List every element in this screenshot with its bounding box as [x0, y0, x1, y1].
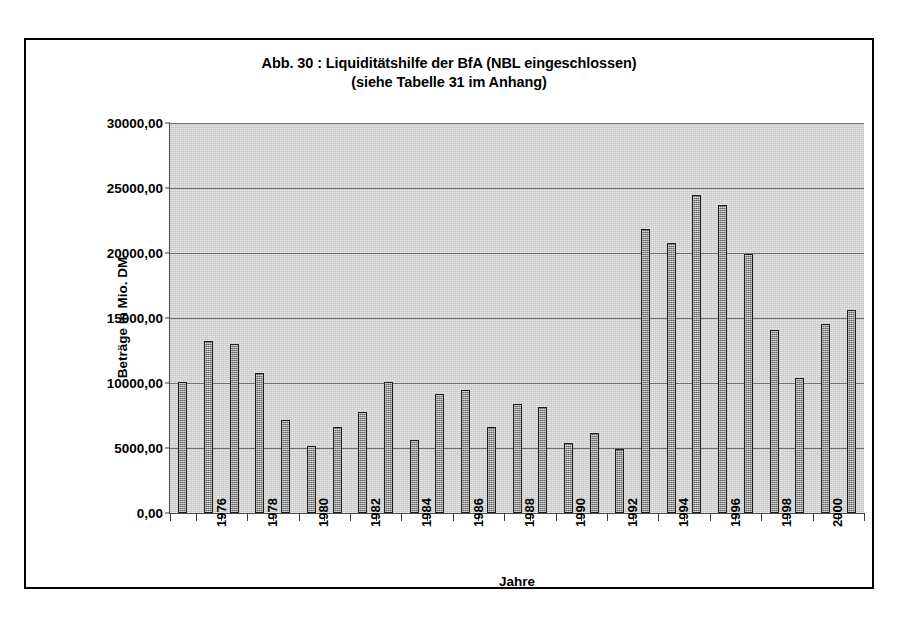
x-axis-tick-mark — [401, 513, 402, 521]
x-axis-tick-mark — [761, 513, 762, 521]
x-axis-tick-label: 1984 — [419, 498, 434, 527]
x-axis-tick-label: 1986 — [471, 498, 486, 527]
bar-2000 — [821, 324, 830, 513]
x-axis-tick-label: 1996 — [728, 498, 743, 527]
x-axis-tick-label: 1976 — [214, 498, 229, 527]
x-axis-tick-mark — [247, 513, 248, 521]
x-axis-tick-mark — [504, 513, 505, 521]
x-axis-tick-label: 1990 — [573, 498, 588, 527]
bar-1976 — [204, 341, 213, 513]
y-axis-tick-label: 30000,00 — [107, 116, 163, 131]
x-axis-tick-label: 1982 — [368, 498, 383, 527]
bar-1982 — [358, 412, 367, 513]
y-axis-tick-label: 5000,00 — [114, 441, 163, 456]
bar-1981 — [333, 427, 342, 513]
bar-1987 — [487, 427, 496, 513]
x-axis-tick-label: 1988 — [522, 498, 537, 527]
x-axis-tick-mark — [196, 513, 197, 521]
bar-1977 — [230, 344, 239, 513]
chart-title: Abb. 30 : Liquiditätshilfe der BfA (NBL … — [26, 54, 872, 92]
x-axis-title: Jahre — [169, 574, 865, 589]
bar-1979 — [281, 420, 290, 513]
bar-1998 — [770, 330, 779, 513]
x-axis-tick-label: 1992 — [625, 498, 640, 527]
x-axis-tick-label: 1980 — [316, 498, 331, 527]
bar-1993 — [641, 229, 650, 513]
bar-series — [170, 123, 864, 513]
bar-2001 — [847, 310, 856, 513]
bar-1978 — [255, 373, 264, 513]
bar-1994 — [667, 243, 676, 513]
x-axis-tick-mark — [350, 513, 351, 521]
chart-screenshot: Abb. 30 : Liquiditätshilfe der BfA (NBL … — [0, 0, 898, 630]
bar-1995 — [692, 195, 701, 513]
y-axis-tick-label: 10000,00 — [107, 376, 163, 391]
y-axis-tick-label: 25000,00 — [107, 181, 163, 196]
chart-frame: Abb. 30 : Liquiditätshilfe der BfA (NBL … — [24, 38, 874, 589]
plot-area: 30000,0025000,0020000,0015000,0010000,00… — [169, 123, 864, 514]
bar-1988 — [513, 404, 522, 513]
bar-1997 — [744, 254, 753, 513]
x-axis-tick-label: 1998 — [779, 498, 794, 527]
x-axis-tick-mark — [299, 513, 300, 521]
x-axis-tick-mark — [556, 513, 557, 521]
x-axis-tick-mark — [607, 513, 608, 521]
x-axis-tick-label: 1978 — [265, 498, 280, 527]
bar-1991 — [590, 433, 599, 513]
bar-1985 — [435, 394, 444, 513]
y-axis-tick-label: 0,00 — [137, 506, 163, 521]
bar-1996 — [718, 205, 727, 513]
x-axis-tick-mark — [453, 513, 454, 521]
x-axis-tick-label: 1994 — [676, 498, 691, 527]
bar-1999 — [795, 378, 804, 513]
y-axis-tick-label: 20000,00 — [107, 246, 163, 261]
bar-1980 — [307, 446, 316, 513]
bar-1983 — [384, 382, 393, 513]
bar-1986 — [461, 390, 470, 514]
chart-title-line-1: Abb. 30 : Liquiditätshilfe der BfA (NBL … — [26, 54, 872, 73]
bar-1989 — [538, 407, 547, 513]
x-axis-tick-mark — [864, 513, 865, 521]
x-axis-tick-label: 2000 — [830, 498, 845, 527]
x-axis-tick-mark — [658, 513, 659, 521]
bar-1975 — [178, 382, 187, 513]
bar-1992 — [615, 449, 624, 513]
x-axis-tick-mark — [710, 513, 711, 521]
y-axis-tick-label: 15000,00 — [107, 311, 163, 326]
x-axis-tick-mark — [813, 513, 814, 521]
bar-1990 — [564, 443, 573, 513]
bar-1984 — [410, 440, 419, 513]
x-axis-ticks: 1976197819801982198419861988199019921994… — [170, 513, 864, 523]
x-axis-tick-mark — [170, 513, 171, 521]
chart-title-line-2: (siehe Tabelle 31 im Anhang) — [26, 73, 872, 92]
